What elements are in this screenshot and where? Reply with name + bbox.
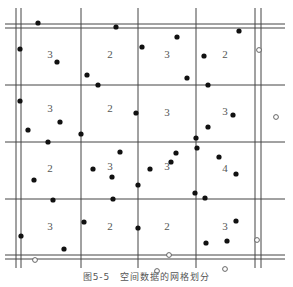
- data-point: [205, 124, 210, 129]
- cell-count-label: 3: [222, 105, 228, 117]
- data-point: [230, 112, 235, 117]
- data-point: [216, 154, 221, 159]
- cell-count-label: 4: [222, 162, 228, 174]
- data-point: [25, 127, 30, 132]
- data-point: [109, 174, 114, 179]
- data-point: [168, 159, 173, 164]
- cell-count-label: 3: [107, 160, 113, 172]
- data-point: [224, 238, 229, 243]
- data-point: [201, 53, 206, 58]
- data-point: [18, 233, 23, 238]
- data-point: [135, 182, 140, 187]
- cell-count-label: 3: [164, 48, 170, 60]
- data-point: [50, 197, 55, 202]
- outlier-point: [274, 115, 279, 120]
- data-point: [95, 82, 100, 87]
- data-point: [233, 218, 238, 223]
- data-point: [81, 219, 86, 224]
- cell-count-label: 2: [222, 48, 228, 60]
- data-point: [117, 149, 122, 154]
- outlier-point: [257, 48, 262, 53]
- data-point: [193, 135, 198, 140]
- data-point: [54, 59, 59, 64]
- data-point: [113, 24, 118, 29]
- cell-count-label: 2: [107, 220, 113, 232]
- data-point: [57, 119, 62, 124]
- cell-count-label: 2: [107, 48, 113, 60]
- data-point: [135, 225, 140, 230]
- cell-count-label: 3: [164, 106, 170, 118]
- figure-caption: 图5-5 空间数据的网格划分: [0, 270, 293, 283]
- data-point: [17, 46, 22, 51]
- data-point: [233, 171, 238, 176]
- data-point: [203, 240, 208, 245]
- data-point: [194, 145, 199, 150]
- cell-count-label: 3: [47, 220, 53, 232]
- data-point: [205, 82, 210, 87]
- diagram-canvas: 3232323323343223: [0, 0, 293, 287]
- cell-count-label: 3: [47, 48, 53, 60]
- cell-count-label: 2: [107, 102, 113, 114]
- cell-count-label: 2: [47, 162, 53, 174]
- data-point: [45, 139, 50, 144]
- outlier-point: [167, 253, 172, 258]
- data-point: [192, 190, 197, 195]
- outlier-point: [33, 258, 38, 263]
- data-point: [78, 131, 83, 136]
- grid-partition-diagram: 3232323323343223 图5-5 空间数据的网格划分: [0, 0, 293, 287]
- data-point: [174, 34, 179, 39]
- data-point: [84, 72, 89, 77]
- data-point: [90, 166, 95, 171]
- data-point: [139, 44, 144, 49]
- data-point: [184, 75, 189, 80]
- data-point: [31, 177, 36, 182]
- data-point: [17, 98, 22, 103]
- outlier-point: [255, 238, 260, 243]
- data-point: [202, 195, 207, 200]
- data-point: [35, 20, 40, 25]
- data-point: [173, 150, 178, 155]
- cell-count-label: 3: [47, 102, 53, 114]
- data-point: [133, 110, 138, 115]
- data-point: [61, 246, 66, 251]
- data-point: [147, 166, 152, 171]
- data-point: [110, 196, 115, 201]
- cell-count-label: 3: [222, 220, 228, 232]
- data-point: [236, 28, 241, 33]
- cell-count-label: 2: [164, 220, 170, 232]
